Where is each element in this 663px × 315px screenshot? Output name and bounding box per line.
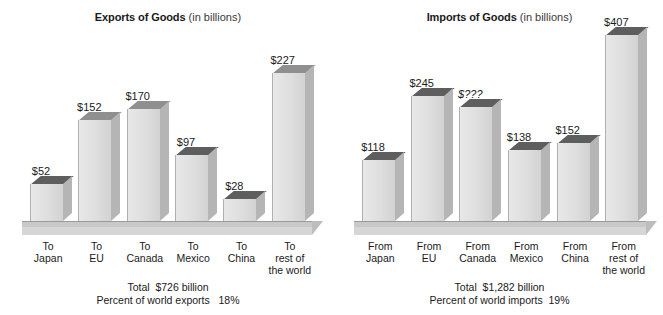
exports-plot-area: $52 $152 $170 <box>0 30 336 235</box>
bar-slot-to-canada: $170 <box>119 30 167 221</box>
bar-from-china[interactable] <box>557 143 590 221</box>
bar-from-eu[interactable] <box>411 96 444 221</box>
floor-right-bevel <box>312 221 323 235</box>
category-label-to-canada: To Canada <box>119 240 167 276</box>
bar-front-face <box>411 96 444 221</box>
bar-front-face <box>508 150 541 221</box>
category-label-from-rest-of-world: From rest of the world <box>597 240 646 276</box>
bar-from-mexico[interactable] <box>508 150 541 221</box>
category-label-from-japan: From Japan <box>354 240 403 276</box>
category-label-from-china: From China <box>549 240 598 276</box>
exports-chart-panel: Exports of Goods (in billions) $52 $152 <box>0 0 336 315</box>
bar-to-china[interactable] <box>223 199 256 221</box>
category-label-to-rest-of-world: To rest of the world <box>264 240 312 276</box>
category-label-to-mexico: To Mexico <box>167 240 215 276</box>
bar-from-canada[interactable] <box>459 107 492 221</box>
category-label-to-japan: To Japan <box>22 240 70 276</box>
bar-from-japan[interactable] <box>362 160 395 221</box>
bar-front-face <box>175 155 208 221</box>
bar-side-face <box>638 27 647 221</box>
bar-slot-from-china: $152 <box>549 30 598 221</box>
floor-front-surface <box>22 227 312 235</box>
bar-to-rest-of-world[interactable] <box>272 73 305 221</box>
bar-to-japan[interactable] <box>30 184 63 221</box>
bar-from-rest-of-world[interactable] <box>605 35 638 221</box>
bar-slot-from-japan: $118 <box>354 30 403 221</box>
bar-slot-to-japan: $52 <box>22 30 70 221</box>
bar-slot-to-mexico: $97 <box>167 30 215 221</box>
bar-front-face <box>223 199 256 221</box>
bar-front-face <box>605 35 638 221</box>
bar-front-face <box>30 184 63 221</box>
exports-footer-totals: Total $726 billion Percent of world expo… <box>0 281 336 306</box>
bar-front-face <box>362 160 395 221</box>
bar-to-eu[interactable] <box>78 120 111 221</box>
imports-percent-line: Percent of world imports 19% <box>336 294 663 307</box>
bar-front-face <box>459 107 492 221</box>
bar-slot-to-eu: $152 <box>70 30 118 221</box>
imports-total-line: Total $1,282 billion <box>336 281 663 294</box>
bar-slot-to-rest-of-world: $227 <box>264 30 312 221</box>
imports-plot-area: $118 $245 $??? <box>336 30 663 235</box>
imports-chart-panel: Imports of Goods (in billions) $118 $245 <box>336 0 663 315</box>
category-label-from-mexico: From Mexico <box>500 240 549 276</box>
category-label-to-china: To China <box>215 240 263 276</box>
imports-footer-totals: Total $1,282 billion Percent of world im… <box>336 281 663 306</box>
bar-slot-from-rest-of-world: $407 <box>597 30 646 221</box>
bar-front-face <box>272 73 305 221</box>
bar-slot-from-eu: $245 <box>403 30 452 221</box>
floor-front-surface <box>354 227 646 235</box>
exports-chart-title: Exports of Goods (in billions) <box>0 11 336 24</box>
floor-right-bevel <box>646 221 657 235</box>
exports-title-main: Exports of Goods <box>95 11 186 23</box>
imports-chart-floor <box>354 221 646 235</box>
exports-category-labels: To Japan To EU To Canada To Mexico To Ch… <box>22 240 312 276</box>
bar-to-mexico[interactable] <box>175 155 208 221</box>
bar-slot-from-canada: $??? <box>451 30 500 221</box>
exports-title-units: (in billions) <box>189 11 242 23</box>
imports-bar-group: $118 $245 $??? <box>354 30 646 221</box>
imports-title-main: Imports of Goods <box>427 11 517 23</box>
imports-title-units: (in billions) <box>520 11 573 23</box>
category-label-from-canada: From Canada <box>451 240 500 276</box>
bar-front-face <box>557 143 590 221</box>
exports-bar-group: $52 $152 $170 <box>22 30 312 221</box>
bar-side-face <box>305 65 314 221</box>
exports-total-line: Total $726 billion <box>0 281 336 294</box>
exports-percent-line: Percent of world exports 18% <box>0 294 336 307</box>
category-label-to-eu: To EU <box>70 240 118 276</box>
bar-front-face <box>127 109 160 221</box>
exports-chart-floor <box>22 221 312 235</box>
bar-to-canada[interactable] <box>127 109 160 221</box>
imports-category-labels: From Japan From EU From Canada From Mexi… <box>354 240 646 276</box>
category-label-from-eu: From EU <box>403 240 452 276</box>
bar-front-face <box>78 120 111 221</box>
